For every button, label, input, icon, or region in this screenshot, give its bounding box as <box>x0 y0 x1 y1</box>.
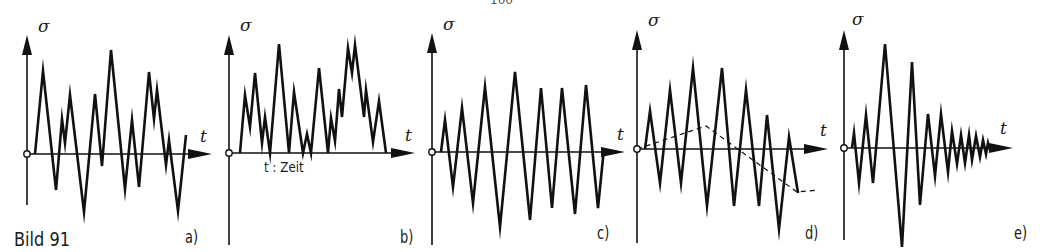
panel-b-label: b) <box>400 229 413 246</box>
panel-d-label: d) <box>805 225 818 242</box>
panel-d-sigma-label: σ <box>648 12 660 29</box>
time-axis-arrow-icon <box>391 148 415 158</box>
sigma-axis-arrow-icon <box>224 35 234 55</box>
panel-e-t-label: t <box>1000 120 1007 137</box>
figure-caption: Bild 91 <box>14 230 70 249</box>
fatigue-load-figure <box>0 0 1045 252</box>
panel-b <box>224 35 415 245</box>
stress-waveform <box>240 44 386 153</box>
panel-a-sigma-label: σ <box>38 18 50 35</box>
origin-marker-icon <box>24 151 30 157</box>
stress-waveform <box>852 44 990 247</box>
panel-b-sigma-label: σ <box>240 17 252 34</box>
sigma-axis-arrow-icon <box>632 30 642 50</box>
time-note: t : Zeit <box>264 160 304 174</box>
panel-a <box>22 35 212 212</box>
origin-marker-icon <box>429 149 435 155</box>
panel-a-label: a) <box>185 229 198 246</box>
sigma-axis-arrow-icon <box>839 30 849 50</box>
sigma-axis-arrow-icon <box>22 35 32 55</box>
page-number: 100 <box>490 0 513 6</box>
panel-c-sigma-label: σ <box>443 16 455 33</box>
panel-c <box>427 33 625 245</box>
panel-e-sigma-label: σ <box>852 11 864 28</box>
origin-marker-icon <box>841 145 847 151</box>
panel-e <box>839 30 1013 247</box>
panel-c-label: c) <box>597 225 609 242</box>
origin-marker-icon <box>634 146 640 152</box>
panel-c-t-label: t <box>617 126 624 143</box>
stress-waveform <box>35 50 186 212</box>
panel-e-label: e) <box>1014 225 1027 242</box>
origin-marker-icon <box>226 150 232 156</box>
panel-d-t-label: t <box>820 122 827 139</box>
time-axis-arrow-icon <box>188 149 212 159</box>
time-axis-arrow-icon <box>804 144 828 154</box>
sigma-axis-arrow-icon <box>427 33 437 53</box>
stress-waveform <box>441 72 604 227</box>
panel-b-t-label: t <box>405 127 412 144</box>
panel-a-t-label: t <box>200 128 207 145</box>
time-axis-arrow-icon <box>989 143 1013 153</box>
panel-d <box>632 30 828 243</box>
